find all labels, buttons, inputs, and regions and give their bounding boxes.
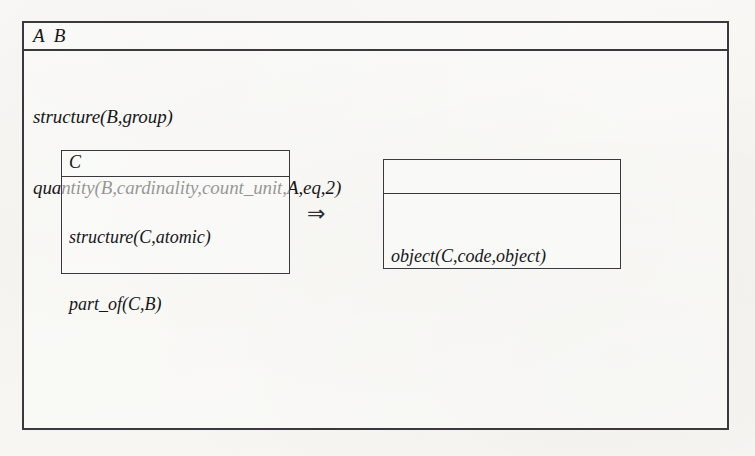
rule1-lhs-header: C: [62, 151, 289, 177]
root-literal-structure: structure(B,group): [33, 105, 727, 129]
root-entity-box: A B structure(B,group) quantity(B,cardin…: [22, 21, 729, 430]
rule-diagram: A B structure(B,group) quantity(B,cardin…: [0, 0, 755, 456]
rule1-lhs-literals: structure(C,atomic) part_of(C,B): [62, 177, 289, 360]
rule1-rhs-header: [384, 160, 620, 194]
rule1-rhs-literals: object(C,code,object): [384, 194, 620, 312]
rule1-lhs-literal-part-of: part_of(C,B): [69, 293, 289, 315]
rule1-rhs-literal-object: object(C,code,object): [391, 245, 620, 267]
rule1-lhs-literal-structure: structure(C,atomic): [69, 226, 289, 248]
double-right-arrow-icon: ⇒: [307, 203, 325, 225]
root-entity-header: A B: [24, 23, 727, 51]
rule1-lhs-box: C structure(C,atomic) part_of(C,B): [61, 150, 290, 274]
rule1-rhs-box: object(C,code,object): [383, 159, 621, 269]
